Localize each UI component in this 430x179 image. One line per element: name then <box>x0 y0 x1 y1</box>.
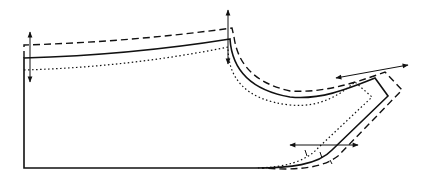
base-size-outline <box>24 39 388 168</box>
pattern-diagram: pattern-grading <box>0 0 430 179</box>
smaller-size-outline <box>24 47 372 168</box>
larger-size-outline <box>24 28 402 169</box>
